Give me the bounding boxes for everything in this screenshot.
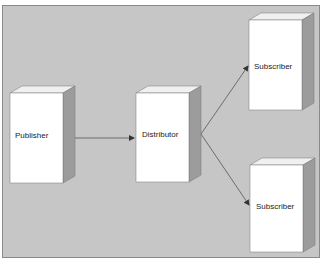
subscriber-1-label: Subscriber [254, 62, 293, 71]
subscriber-2-label: Subscriber [256, 202, 295, 211]
node-subscriber-2[interactable]: Subscriber [250, 158, 315, 252]
node-subscriber-1[interactable]: Subscriber [249, 13, 314, 110]
edge-distributor-subscriber2 [201, 134, 249, 205]
node-publisher[interactable]: Publisher [10, 86, 75, 183]
distributor-label: Distributor [142, 130, 179, 139]
publisher-label: Publisher [15, 131, 49, 140]
diagram-canvas: Publisher Distributor Subscriber Subscri… [0, 0, 324, 261]
node-distributor[interactable]: Distributor [136, 86, 201, 182]
edge-distributor-subscriber1 [201, 66, 248, 134]
